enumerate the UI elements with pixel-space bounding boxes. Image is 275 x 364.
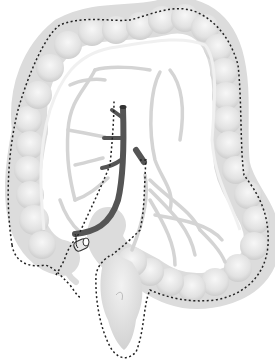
colon-illustration xyxy=(0,0,275,364)
illustration-canvas xyxy=(0,0,275,364)
